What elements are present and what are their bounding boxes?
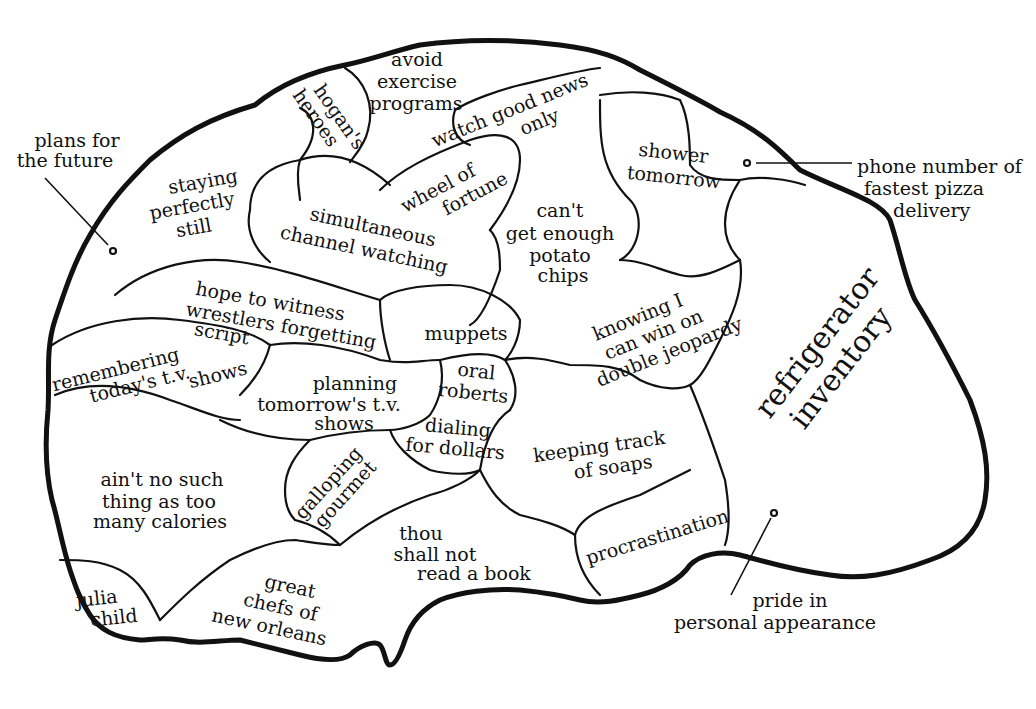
label-calories: ain't no such thing as too many calories [93,468,230,532]
label-muppets: muppets [424,322,507,344]
callout-pride-appearance: pride in personal appearance [674,589,876,633]
brain-diagram: hogan's heroes avoid exercise programs w… [0,0,1036,709]
callout-plans-future: plans for the future [17,129,126,171]
